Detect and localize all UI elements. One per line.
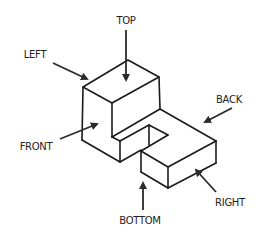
right-arrow-icon xyxy=(196,170,216,192)
left-arrow-icon xyxy=(53,63,87,79)
hole-back-edge xyxy=(149,125,168,135)
label-left: LEFT xyxy=(24,49,48,60)
step-left-edge xyxy=(112,137,120,141)
arm-top-right-edge xyxy=(168,141,216,167)
front-arrow-icon xyxy=(60,124,97,139)
step-top-front-edge xyxy=(120,125,149,141)
arm-bottom-front-edge xyxy=(141,172,168,188)
view-labels: TOP LEFT BACK FRONT BOTTOM RIGHT xyxy=(20,15,246,226)
base-back-edge xyxy=(160,109,216,141)
label-bottom: BOTTOM xyxy=(119,215,160,226)
left-bottom-edge xyxy=(82,140,120,162)
isometric-block xyxy=(82,60,216,188)
label-front: FRONT xyxy=(20,141,54,152)
isometric-diagram: TOP LEFT BACK FRONT BOTTOM RIGHT xyxy=(0,0,263,239)
hole-right-edge xyxy=(141,135,168,151)
tall-block-top-face xyxy=(83,60,159,103)
label-back: BACK xyxy=(216,94,243,105)
back-vertical-edge xyxy=(159,77,160,109)
label-top: TOP xyxy=(115,15,135,26)
arm-top-front-edge xyxy=(141,151,168,167)
left-vertical-edge xyxy=(82,87,83,140)
step-bottom-edge xyxy=(120,150,141,162)
label-right: RIGHT xyxy=(215,197,246,208)
back-arrow-icon xyxy=(205,108,232,122)
